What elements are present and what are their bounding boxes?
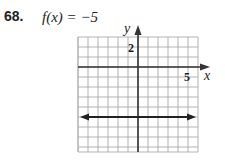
x-axis-label: x <box>203 68 211 83</box>
y-axis-arrow-icon <box>135 25 142 35</box>
x-tick-label: 5 <box>184 70 190 84</box>
arrow-right-icon <box>187 114 196 121</box>
graph: y x 2 5 <box>0 0 225 167</box>
y-tick-label: 2 <box>128 41 134 55</box>
arrow-left-icon <box>80 114 89 121</box>
y-axis-label: y <box>122 21 131 36</box>
